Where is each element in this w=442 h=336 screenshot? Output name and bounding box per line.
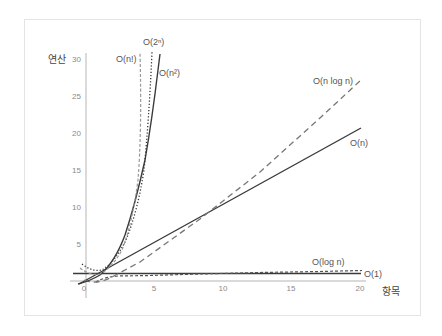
y-tick-5: 5 [77, 240, 82, 249]
x-tick-5: 5 [152, 284, 157, 293]
label-exponential: O(2ⁿ) [143, 37, 164, 47]
x-tick-20: 20 [356, 284, 365, 293]
x-tick-15: 15 [287, 284, 296, 293]
label-log: O(log n) [312, 257, 345, 267]
x-tick-0: 0 [82, 284, 87, 293]
label-factorial: O(n!) [116, 54, 137, 64]
x-axis-title: 항목 [382, 286, 400, 297]
y-tick-25: 25 [72, 92, 81, 101]
y-axis-title: 연산 [48, 54, 66, 65]
label-quadratic: O(n²) [159, 68, 180, 78]
y-tick-20: 20 [72, 129, 81, 138]
x-tick-10: 10 [219, 284, 228, 293]
y-tick-10: 10 [72, 203, 81, 212]
label-linear: O(n) [350, 138, 368, 148]
label-nlogn: O(n log n) [313, 76, 353, 86]
label-constant: O(1) [364, 269, 382, 279]
y-tick-30: 30 [72, 55, 81, 64]
complexity-chart: 30 25 20 15 10 5 0 5 10 15 20 연산 항목 O(n!… [0, 0, 442, 336]
y-tick-15: 15 [72, 166, 81, 175]
